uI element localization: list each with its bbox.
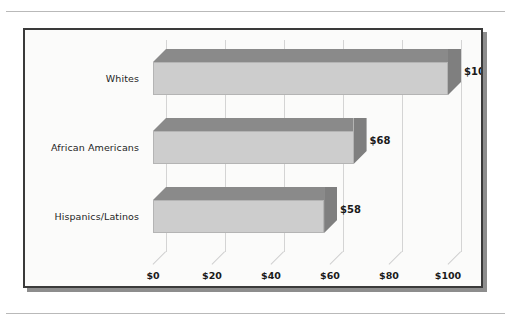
bar-end-cap-2 bbox=[324, 187, 337, 233]
value-label-0: $100 bbox=[464, 66, 483, 77]
top-divider-rule bbox=[6, 11, 505, 12]
x-tick-label-0: $0 bbox=[123, 270, 183, 281]
gridline-usd100 bbox=[461, 40, 462, 252]
bottom-divider-rule bbox=[6, 313, 505, 314]
x-tick-label-3: $60 bbox=[300, 270, 360, 281]
x-tick-label-1: $20 bbox=[182, 270, 242, 281]
axis-leader-line-0 bbox=[152, 251, 166, 265]
bar-front-face-1 bbox=[153, 131, 354, 164]
chart-page: $0$20$40$60$80$100Whites$100African Amer… bbox=[0, 0, 511, 325]
axis-leader-line-2 bbox=[270, 251, 284, 265]
bar-top-face-0 bbox=[153, 49, 448, 62]
bar-top-face-2 bbox=[153, 187, 324, 200]
axis-leader-line-3 bbox=[329, 251, 343, 265]
bar-end-cap-1 bbox=[354, 118, 367, 164]
category-label-0: Whites bbox=[25, 73, 139, 84]
bar-front-face-2 bbox=[153, 200, 324, 233]
value-label-1: $68 bbox=[370, 135, 391, 146]
bar-end-cap-0 bbox=[448, 49, 461, 95]
x-tick-label-4: $80 bbox=[359, 270, 419, 281]
value-label-2: $58 bbox=[340, 204, 361, 215]
x-tick-label-5: $100 bbox=[418, 270, 478, 281]
bar-front-face-0 bbox=[153, 62, 448, 95]
chart-frame: $0$20$40$60$80$100Whites$100African Amer… bbox=[23, 28, 483, 288]
axis-leader-line-4 bbox=[388, 251, 402, 265]
x-tick-label-2: $40 bbox=[241, 270, 301, 281]
plot-area: $0$20$40$60$80$100Whites$100African Amer… bbox=[25, 30, 481, 286]
bar-top-face-1 bbox=[153, 118, 354, 131]
axis-leader-line-1 bbox=[211, 251, 225, 265]
category-label-2: Hispanics/Latinos bbox=[25, 211, 139, 222]
category-label-1: African Americans bbox=[25, 142, 139, 153]
axis-leader-line-5 bbox=[447, 251, 461, 265]
